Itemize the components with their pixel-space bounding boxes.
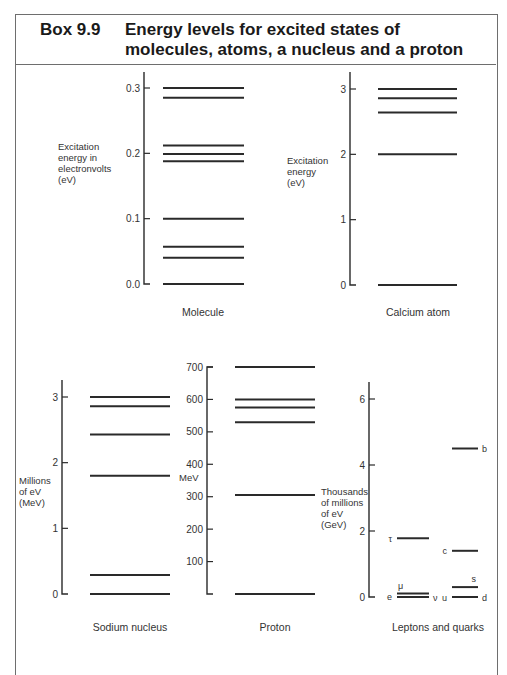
axis-title: Millions [19, 475, 51, 486]
axis-title: (MeV) [19, 497, 45, 508]
particle-label: b [482, 444, 487, 454]
particle-label: u [442, 593, 447, 603]
panel-label: Proton [260, 621, 291, 633]
tick-label: 3 [52, 392, 58, 403]
axis-title: Excitation [58, 141, 99, 152]
panel-label: Sodium nucleus [93, 621, 168, 633]
y-axis [144, 72, 150, 284]
tick-label: 0 [52, 589, 58, 600]
particle-label: s [472, 574, 477, 584]
tick-label: 600 [186, 394, 203, 405]
axis-title: (eV) [58, 174, 76, 185]
particle-label: d [482, 593, 487, 603]
tick-label: 2 [52, 457, 58, 468]
particle-label: c [443, 546, 448, 556]
tick-label: 2 [340, 149, 346, 160]
axis-title: of millions [321, 497, 363, 508]
tick-label: 100 [186, 556, 203, 567]
panel-label: Calcium atom [386, 306, 450, 318]
tick-label: 300 [186, 491, 203, 502]
tick-label: 0.3 [126, 83, 140, 94]
tick-label: 400 [186, 459, 203, 470]
particle-label: e [387, 592, 392, 602]
particle-label: τ [388, 534, 392, 544]
tick-label: 0 [359, 592, 365, 603]
particle-label: μ [398, 581, 403, 591]
tick-label: 0.1 [126, 213, 140, 224]
y-axis [62, 380, 68, 594]
axis-title: energy in [58, 152, 97, 163]
y-axis [207, 367, 213, 594]
tick-label: 1 [52, 523, 58, 534]
y-axis [369, 382, 375, 597]
tick-label: 200 [186, 524, 203, 535]
tick-label: 700 [186, 362, 203, 373]
tick-label: 2 [359, 526, 365, 537]
tick-label: 500 [186, 426, 203, 437]
tick-label: 6 [359, 394, 365, 405]
axis-title: Excitation [287, 155, 328, 166]
particle-label: ν [433, 593, 438, 603]
tick-label: 1 [340, 214, 346, 225]
tick-label: 0 [340, 280, 346, 291]
axis-title: Thousands [321, 486, 368, 497]
panel-label: Molecule [182, 306, 224, 318]
tick-label: 3 [340, 84, 346, 95]
axis-title: of eV [19, 486, 42, 497]
panel-label: Leptons and quarks [392, 621, 484, 633]
tick-label: 4 [359, 460, 365, 471]
axis-title: of eV [321, 508, 344, 519]
axis-title: MeV [179, 472, 199, 483]
axis-title: (GeV) [321, 519, 346, 530]
y-axis [350, 72, 356, 285]
tick-label: 0.2 [126, 148, 140, 159]
axis-title: (eV) [287, 177, 305, 188]
axis-title: energy [287, 166, 316, 177]
axis-title: electronvolts [58, 163, 112, 174]
tick-label: 0.0 [126, 279, 140, 290]
